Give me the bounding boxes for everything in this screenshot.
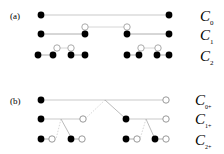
open-node xyxy=(163,97,169,103)
open-node xyxy=(54,45,60,51)
open-node xyxy=(163,116,169,122)
filled-node xyxy=(38,136,45,143)
filled-node xyxy=(166,52,173,59)
panel-a: (a) C0 C1 C2 xyxy=(10,8,214,67)
panel-b-tag: (b) xyxy=(10,96,21,106)
filled-node xyxy=(154,52,161,59)
label-c0-plus: C0+ xyxy=(195,92,212,110)
label-c1: C1 xyxy=(200,27,214,46)
open-node xyxy=(134,136,140,142)
label-c0: C0 xyxy=(200,8,214,27)
filled-node xyxy=(166,12,173,19)
panel-b: (b) C0+ C1+ C2+ xyxy=(10,92,212,150)
filled-node xyxy=(123,136,130,143)
filled-node xyxy=(35,52,42,59)
filled-node xyxy=(38,12,45,19)
filled-node xyxy=(38,31,45,38)
filled-node xyxy=(152,136,159,143)
filled-node xyxy=(38,116,45,123)
filled-node xyxy=(68,52,75,59)
open-node xyxy=(163,136,169,142)
label-c2-plus: C2+ xyxy=(195,132,212,150)
filled-node xyxy=(82,52,89,59)
filled-node xyxy=(68,136,75,143)
filled-node xyxy=(166,31,173,38)
label-c1-plus: C1+ xyxy=(195,111,212,129)
filled-node xyxy=(38,97,45,104)
filled-node xyxy=(124,31,131,38)
panel-a-tag: (a) xyxy=(10,11,20,21)
open-node xyxy=(155,45,161,51)
label-c2: C2 xyxy=(200,48,214,67)
open-node xyxy=(49,136,55,142)
open-node xyxy=(138,45,144,51)
open-node xyxy=(68,45,74,51)
open-node xyxy=(80,116,86,122)
open-node xyxy=(79,136,85,142)
open-node xyxy=(124,24,130,30)
filled-node xyxy=(136,52,143,59)
hierarchy-diagram: (a) C0 C1 C2 xyxy=(0,0,224,154)
filled-node xyxy=(82,31,89,38)
filled-node xyxy=(50,52,57,59)
filled-node xyxy=(124,52,131,59)
filled-node xyxy=(123,116,130,123)
open-node xyxy=(82,24,88,30)
